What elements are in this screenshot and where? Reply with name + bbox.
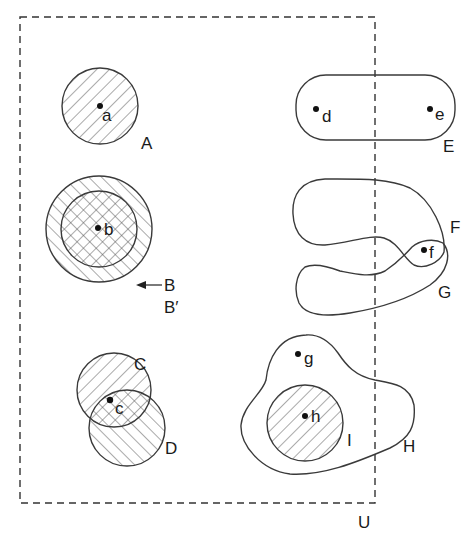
- point-h-label: h: [311, 407, 320, 426]
- set-b-and-b-prime: b B B′: [46, 176, 179, 317]
- point-d-dot: [313, 106, 319, 112]
- point-f-label: f: [429, 243, 434, 262]
- point-f-dot: [421, 247, 427, 253]
- set-a: a A: [62, 68, 153, 153]
- label-d: D: [165, 439, 177, 458]
- label-u: U: [358, 513, 370, 532]
- label-i: I: [347, 431, 352, 450]
- set-f-outline: [293, 179, 444, 267]
- point-e-dot: [427, 106, 433, 112]
- point-b-dot: [95, 225, 101, 231]
- label-h: H: [403, 437, 415, 456]
- set-h-and-i: g h I H: [241, 335, 415, 474]
- point-g-label: g: [304, 349, 313, 368]
- label-b-prime: B′: [164, 298, 179, 317]
- point-d-label: d: [322, 107, 331, 126]
- point-b-label: b: [104, 220, 113, 239]
- point-g-dot: [295, 351, 301, 357]
- point-e-label: e: [435, 105, 444, 124]
- set-c-and-d: c C D: [77, 353, 177, 466]
- label-a: A: [141, 134, 153, 153]
- label-f: F: [450, 218, 460, 237]
- label-e: E: [443, 137, 454, 156]
- arrowhead-icon: [136, 281, 146, 289]
- point-c-label: c: [115, 399, 124, 418]
- set-f-and-g: f F G: [293, 179, 460, 315]
- label-b: B: [164, 276, 175, 295]
- point-c-dot: [107, 397, 113, 403]
- point-a-label: a: [102, 106, 112, 125]
- point-h-dot: [302, 413, 308, 419]
- label-g: G: [438, 283, 451, 302]
- venn-diagram: U a A b B B′ c C D d: [0, 0, 472, 546]
- label-c: C: [134, 355, 146, 374]
